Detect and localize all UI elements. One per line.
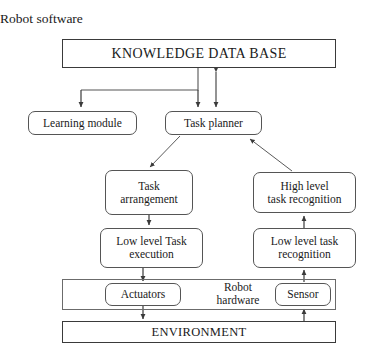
node-learning-module-label: Learning module bbox=[43, 117, 122, 130]
node-task-arrangement-label: Task arrangement bbox=[120, 180, 177, 206]
node-sensor: Sensor bbox=[275, 283, 331, 306]
diagram-title: Robot software bbox=[0, 11, 83, 26]
diagram-title-label: Robot software bbox=[0, 11, 83, 26]
diagram-canvas: Robot software KNOWLEDGE DATA BASE Learn… bbox=[0, 0, 391, 358]
node-actuators-label: Actuators bbox=[121, 288, 166, 301]
node-sensor-label: Sensor bbox=[287, 288, 318, 301]
node-knowledge-data-base-label: KNOWLEDGE DATA BASE bbox=[111, 46, 286, 62]
node-environment-label: ENVIRONMENT bbox=[152, 325, 247, 339]
node-actuators: Actuators bbox=[105, 283, 181, 306]
group-robot-hardware-label-wrap: Robot hardware bbox=[196, 281, 280, 307]
node-low-level-task-execution: Low level Task execution bbox=[100, 228, 203, 268]
group-robot-hardware-label: Robot hardware bbox=[196, 281, 280, 307]
connector-kdb-to-learning-module bbox=[81, 68, 198, 107]
node-learning-module: Learning module bbox=[28, 111, 137, 135]
node-knowledge-data-base: KNOWLEDGE DATA BASE bbox=[62, 39, 336, 68]
node-high-level-task-recognition: High level task recognition bbox=[253, 172, 356, 213]
node-task-arrangement: Task arrangement bbox=[105, 170, 193, 215]
node-task-planner-label: Task planner bbox=[184, 117, 243, 130]
node-low-level-task-execution-label: Low level Task execution bbox=[116, 235, 187, 261]
node-environment: ENVIRONMENT bbox=[62, 321, 336, 343]
connector-task-planner-to-task-arrangement bbox=[150, 136, 180, 167]
node-low-level-task-recognition-label: Low level task recognition bbox=[271, 235, 339, 261]
connector-high-level-recognition-to-task-planner bbox=[250, 139, 292, 171]
node-high-level-task-recognition-label: High level task recognition bbox=[268, 180, 342, 206]
node-task-planner: Task planner bbox=[165, 111, 262, 135]
node-low-level-task-recognition: Low level task recognition bbox=[253, 228, 356, 268]
